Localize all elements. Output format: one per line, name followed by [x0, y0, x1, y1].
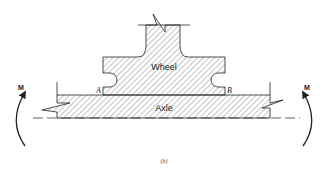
moment-left-label: M	[18, 84, 24, 91]
moment-arrow-right-icon	[303, 94, 312, 146]
figure-caption: (b)	[161, 158, 168, 165]
wheel-axle-diagram: Wheel Axle A B M M (b)	[0, 0, 324, 174]
point-a-label: A	[95, 86, 101, 95]
axle-label: Axle	[155, 103, 173, 113]
moment-right-label: M	[304, 84, 310, 91]
point-b-label: B	[227, 86, 232, 95]
wheel-label: Wheel	[151, 62, 177, 72]
moment-arrow-left-icon	[16, 94, 25, 146]
wheel	[103, 14, 225, 95]
